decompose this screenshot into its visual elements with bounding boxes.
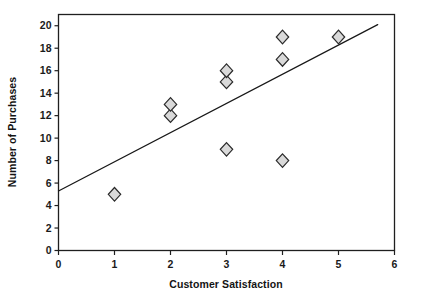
y-axis-title: Number of Purchases: [6, 77, 18, 187]
x-tick-label: 6: [392, 258, 398, 270]
plot-canvas: 02468101214161820 0123456 Customer Satis…: [0, 0, 421, 298]
x-axis-tick-labels: 0123456: [56, 258, 398, 270]
data-point-marker: [220, 143, 232, 157]
scatter-plot-figure: 02468101214161820 0123456 Customer Satis…: [0, 0, 421, 298]
data-point-marker: [276, 30, 288, 44]
data-point-marker: [276, 154, 288, 168]
y-axis-tick-labels: 02468101214161820: [40, 19, 52, 256]
y-tick-label: 4: [46, 199, 52, 211]
data-point-marker: [220, 64, 232, 78]
x-tick-label: 2: [168, 258, 174, 270]
y-tick-label: 12: [40, 109, 52, 121]
y-tick-label: 6: [46, 177, 52, 189]
trend-line: [59, 25, 378, 191]
data-point-marker: [164, 98, 176, 112]
trend-line-group: [59, 25, 378, 191]
y-tick-label: 2: [46, 222, 52, 234]
y-tick-label: 18: [40, 42, 52, 54]
y-tick-label: 20: [40, 19, 52, 31]
x-tick-label: 1: [112, 258, 118, 270]
data-point-marker: [332, 30, 344, 44]
y-tick-label: 14: [40, 87, 52, 99]
y-tick-label: 8: [46, 154, 52, 166]
y-tick-label: 10: [40, 132, 52, 144]
x-tick-label: 0: [56, 258, 62, 270]
x-tick-label: 5: [336, 258, 342, 270]
x-tick-label: 3: [224, 258, 230, 270]
x-axis-title: Customer Satisfaction: [169, 278, 283, 290]
data-point-markers: [108, 30, 344, 201]
y-tick-label: 0: [46, 244, 52, 256]
y-tick-label: 16: [40, 64, 52, 76]
data-point-marker: [276, 53, 288, 67]
x-axis-ticks: [59, 251, 395, 256]
data-point-marker: [108, 188, 120, 202]
x-tick-label: 4: [280, 258, 286, 270]
plot-frame: [59, 15, 395, 251]
